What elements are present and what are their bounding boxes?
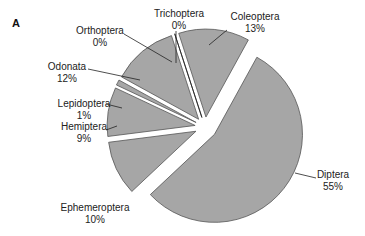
slice-label-diptera: Diptera <box>317 169 350 180</box>
slice-label-trichoptera: Trichoptera <box>154 8 205 19</box>
slice-percent-lepidoptera: 1% <box>77 110 92 121</box>
slice-label-lepidoptera: Lepidoptera <box>58 98 111 109</box>
slice-label-coleoptera: Coleoptera <box>231 11 280 22</box>
slice-label-hemiptera: Hemiptera <box>61 121 108 132</box>
slice-percent-hemiptera: 9% <box>77 133 92 144</box>
slice-label-odonata: Odonata <box>48 61 87 72</box>
slice-percent-coleoptera: 13% <box>245 23 265 34</box>
slice-percent-diptera: 55% <box>323 181 343 192</box>
pie-chart: Coleoptera13%Diptera55%Ephemeroptera10%H… <box>0 0 365 236</box>
slice-percent-odonata: 12% <box>57 73 77 84</box>
slice-label-ephemeroptera: Ephemeroptera <box>61 202 130 213</box>
slice-label-orthoptera: Orthoptera <box>76 25 124 36</box>
slice-percent-orthoptera: 0% <box>93 37 108 48</box>
slice-percent-trichoptera: 0% <box>172 20 187 31</box>
leader-line-diptera <box>295 173 316 178</box>
slice-percent-ephemeroptera: 10% <box>85 214 105 225</box>
